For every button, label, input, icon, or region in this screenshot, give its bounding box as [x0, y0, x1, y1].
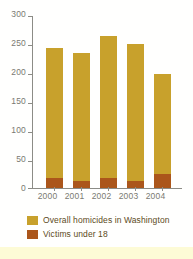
bar-total-2001	[73, 53, 90, 188]
legend-item-under18: Victims under 18	[27, 228, 170, 240]
y-tick-label-150: 150	[11, 97, 26, 106]
x-axis-labels: 2000 2001 2002 2003 2004	[32, 191, 184, 203]
x-tick-label-2001: 2001	[60, 191, 90, 201]
bar-total-2000	[46, 48, 63, 188]
bar-under18-2004	[154, 174, 171, 188]
y-tick-label-300: 300	[11, 10, 26, 19]
chart-legend: Overall homicides in Washington Victims …	[27, 214, 170, 242]
legend-item-overall: Overall homicides in Washington	[27, 214, 170, 226]
legend-label-under18: Victims under 18	[43, 229, 108, 239]
y-tick-label-50: 50	[16, 155, 26, 164]
bar-total-2002	[100, 36, 117, 188]
homicides-bar-chart: 300 250 200 150 100 50 0	[0, 0, 193, 259]
legend-swatch-overall-icon	[27, 216, 38, 225]
y-axis-labels: 300 250 200 150 100 50 0	[0, 14, 26, 189]
legend-swatch-under18-icon	[27, 230, 38, 239]
x-tick-label-2000: 2000	[33, 191, 63, 201]
bar-total-2004	[154, 74, 171, 188]
y-tick-label-100: 100	[11, 126, 26, 135]
plot-area	[32, 14, 184, 189]
y-tick-label-0: 0	[21, 184, 26, 193]
bars-container	[32, 14, 184, 189]
y-tick-label-200: 200	[11, 68, 26, 77]
legend-label-overall: Overall homicides in Washington	[43, 215, 170, 225]
footer-band	[0, 247, 193, 259]
x-tick-label-2004: 2004	[141, 191, 171, 201]
x-tick-label-2003: 2003	[114, 191, 144, 201]
bar-total-2003	[127, 44, 144, 188]
y-tick-label-250: 250	[11, 39, 26, 48]
x-tick-label-2002: 2002	[87, 191, 117, 201]
